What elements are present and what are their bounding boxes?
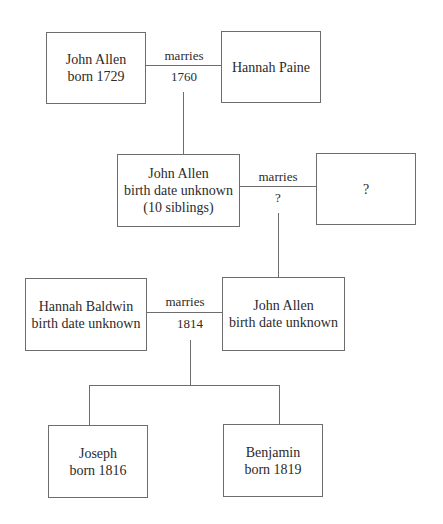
person-box-john-allen-gen3: John Allen birth date unknown: [222, 277, 345, 351]
person-note: (10 siblings): [143, 199, 213, 216]
child-line-joseph: [89, 385, 90, 425]
descent-line-unknown: [278, 213, 279, 278]
marriage-line-unknown: [240, 186, 316, 187]
person-name: John Allen: [66, 51, 126, 68]
marriage-label: marries: [259, 169, 298, 184]
marriage-line-1814: [147, 312, 222, 313]
descent-line-1760: [183, 92, 184, 154]
person-name: John Allen: [253, 297, 313, 314]
person-box-hannah-baldwin: Hannah Baldwin birth date unknown: [25, 278, 147, 351]
marriage-label: marries: [165, 48, 204, 63]
person-name: John Allen: [148, 165, 208, 182]
person-box-joseph: Joseph born 1816: [48, 425, 148, 498]
person-box-john-allen-1729: John Allen born 1729: [46, 32, 146, 104]
marriage-date: ?: [275, 190, 281, 205]
person-name: Benjamin: [246, 444, 300, 461]
person-birth: birth date unknown: [32, 315, 141, 332]
marriage-date: 1760: [171, 69, 197, 84]
person-name: Hannah Paine: [232, 59, 310, 76]
descent-line-1814: [190, 340, 191, 385]
person-box-hannah-paine: Hannah Paine: [221, 31, 321, 103]
marriage-label: marries: [166, 294, 205, 309]
person-birth: born 1819: [244, 461, 301, 478]
marriage-date: 1814: [177, 316, 203, 331]
person-name: Joseph: [79, 445, 117, 462]
child-line-benjamin: [279, 385, 280, 424]
person-birth: born 1816: [69, 462, 126, 479]
person-birth: born 1729: [67, 68, 124, 85]
sibling-bar: [89, 385, 280, 386]
person-birth: birth date unknown: [229, 314, 338, 331]
person-box-benjamin: Benjamin born 1819: [223, 424, 323, 497]
marriage-line-1760: [146, 65, 221, 66]
person-box-john-allen-gen2: John Allen birth date unknown (10 siblin…: [117, 154, 240, 227]
person-name: Hannah Baldwin: [39, 298, 133, 315]
person-birth: birth date unknown: [124, 182, 233, 199]
person-box-unknown-spouse: ?: [316, 153, 416, 225]
person-name: ?: [363, 181, 369, 198]
